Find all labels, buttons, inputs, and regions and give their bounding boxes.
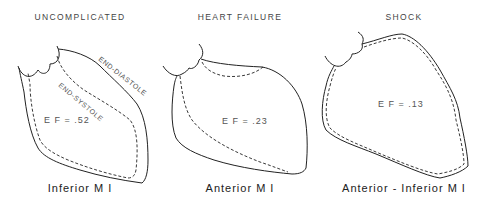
panel-title: SHOCK (322, 12, 486, 22)
panel-heart-failure: HEART FAILURE E F = .23 Anterior M I (160, 0, 320, 208)
ejection-fraction-label: E F = .23 (222, 116, 268, 126)
ejection-fraction-label: E F = .52 (44, 115, 90, 125)
panel-shock: SHOCK E F = .13 Anterior - Inferior M I (322, 0, 486, 208)
panel-caption: Anterior - Inferior M I (322, 182, 486, 194)
panel-uncomplicated: UNCOMPLICATED E F = .52 Inferior M I (0, 0, 160, 208)
panel-title: UNCOMPLICATED (0, 12, 160, 22)
panel-caption: Inferior M I (0, 182, 160, 194)
ejection-fraction-label: E F = .13 (378, 99, 424, 109)
panel-caption: Anterior M I (160, 182, 320, 194)
panel-title: HEART FAILURE (160, 12, 320, 22)
